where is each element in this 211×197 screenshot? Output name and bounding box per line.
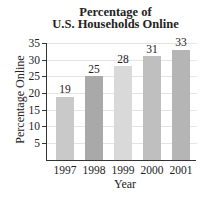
value-label-1999: 28 <box>108 53 138 65</box>
chart-title-line-2: U.S. Households Online <box>10 18 211 31</box>
value-label-1998: 25 <box>79 63 109 75</box>
value-label-1997: 19 <box>50 83 80 95</box>
y-tick-label: 20 <box>14 87 40 99</box>
x-tick-label-2001: 2001 <box>166 164 196 176</box>
x-axis-line <box>46 160 196 161</box>
y-tick-label: 10 <box>14 120 40 132</box>
bar-2001 <box>172 50 190 160</box>
y-axis-line <box>46 43 47 161</box>
y-tick-label: 15 <box>14 104 40 116</box>
x-tick-label-1997: 1997 <box>50 164 80 176</box>
x-tick-label-1999: 1999 <box>108 164 138 176</box>
x-axis-label: Year <box>100 177 150 192</box>
bar-2000 <box>143 56 161 160</box>
value-label-2001: 33 <box>166 36 196 48</box>
y-tick-label: 30 <box>14 54 40 66</box>
y-tick-label: 35 <box>14 37 40 49</box>
bar-1999 <box>114 66 132 160</box>
x-tick-label-2000: 2000 <box>137 164 167 176</box>
y-tick-label: 5 <box>14 137 40 149</box>
value-label-2000: 31 <box>137 43 167 55</box>
bar-1998 <box>85 76 103 160</box>
x-tick-label-1998: 1998 <box>79 164 109 176</box>
bar-1997 <box>56 97 74 161</box>
y-tick-label: 25 <box>14 70 40 82</box>
